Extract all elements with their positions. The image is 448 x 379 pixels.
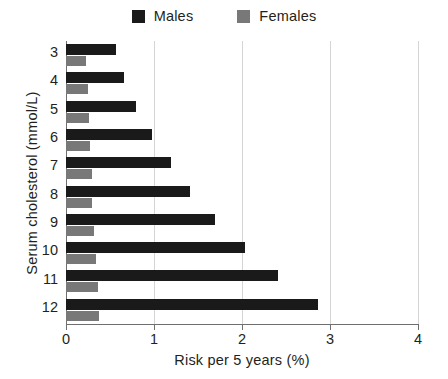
- gridline-x-4: [418, 41, 419, 324]
- chart-legend: Males Females: [0, 8, 448, 24]
- x-tick-4: [418, 324, 419, 330]
- bar-females-4: [66, 84, 88, 94]
- bar-group-7: [66, 157, 418, 185]
- x-tick-3: [330, 324, 331, 330]
- males-swatch-icon: [132, 10, 145, 23]
- females-swatch-icon: [237, 10, 250, 23]
- bar-males-9: [66, 214, 215, 225]
- x-tick-0: [66, 324, 67, 330]
- y-tick-label-4: 4: [30, 72, 58, 88]
- bar-group-10: [66, 242, 418, 270]
- bar-males-12: [66, 299, 318, 310]
- bar-group-12: [66, 299, 418, 327]
- bar-females-10: [66, 254, 96, 264]
- bar-females-9: [66, 226, 94, 236]
- bar-group-6: [66, 129, 418, 157]
- y-tick-label-5: 5: [30, 101, 58, 117]
- x-tick-2: [242, 324, 243, 330]
- x-tick-1: [154, 324, 155, 330]
- x-tick-label-0: 0: [51, 331, 81, 347]
- bar-males-5: [66, 101, 136, 112]
- bar-females-5: [66, 113, 89, 123]
- bar-females-12: [66, 311, 99, 321]
- x-tick-label-1: 1: [139, 331, 169, 347]
- bar-males-10: [66, 242, 245, 253]
- y-tick-label-12: 12: [30, 299, 58, 315]
- bar-females-7: [66, 169, 92, 179]
- x-tick-label-3: 3: [315, 331, 345, 347]
- legend-entry-males: Males: [132, 8, 194, 24]
- x-tick-label-4: 4: [403, 331, 433, 347]
- y-tick-label-10: 10: [30, 242, 58, 258]
- bar-females-11: [66, 282, 98, 292]
- y-tick-label-7: 7: [30, 157, 58, 173]
- y-tick-label-8: 8: [30, 186, 58, 202]
- legend-entry-females: Females: [237, 8, 316, 24]
- bar-group-3: [66, 44, 418, 72]
- legend-label-males: Males: [154, 8, 194, 24]
- bar-group-8: [66, 186, 418, 214]
- bar-males-11: [66, 270, 278, 281]
- bar-males-6: [66, 129, 152, 140]
- y-tick-label-9: 9: [30, 214, 58, 230]
- y-tick-label-6: 6: [30, 129, 58, 145]
- y-tick-label-3: 3: [30, 44, 58, 60]
- bar-females-8: [66, 198, 92, 208]
- bar-group-11: [66, 270, 418, 298]
- bar-group-4: [66, 72, 418, 100]
- bar-males-3: [66, 44, 116, 55]
- x-tick-label-2: 2: [227, 331, 257, 347]
- bar-group-5: [66, 101, 418, 129]
- bar-males-8: [66, 186, 190, 197]
- y-tick-label-11: 11: [30, 271, 58, 287]
- legend-label-females: Females: [259, 8, 316, 24]
- bar-females-3: [66, 56, 86, 66]
- plot-area: [66, 41, 418, 324]
- x-axis-title: Risk per 5 years (%): [66, 352, 418, 368]
- bar-males-4: [66, 72, 124, 83]
- chart-figure: Males Females Risk per 5 years (%) Serum…: [0, 0, 448, 379]
- bar-males-7: [66, 157, 171, 168]
- bar-females-6: [66, 141, 90, 151]
- bar-group-9: [66, 214, 418, 242]
